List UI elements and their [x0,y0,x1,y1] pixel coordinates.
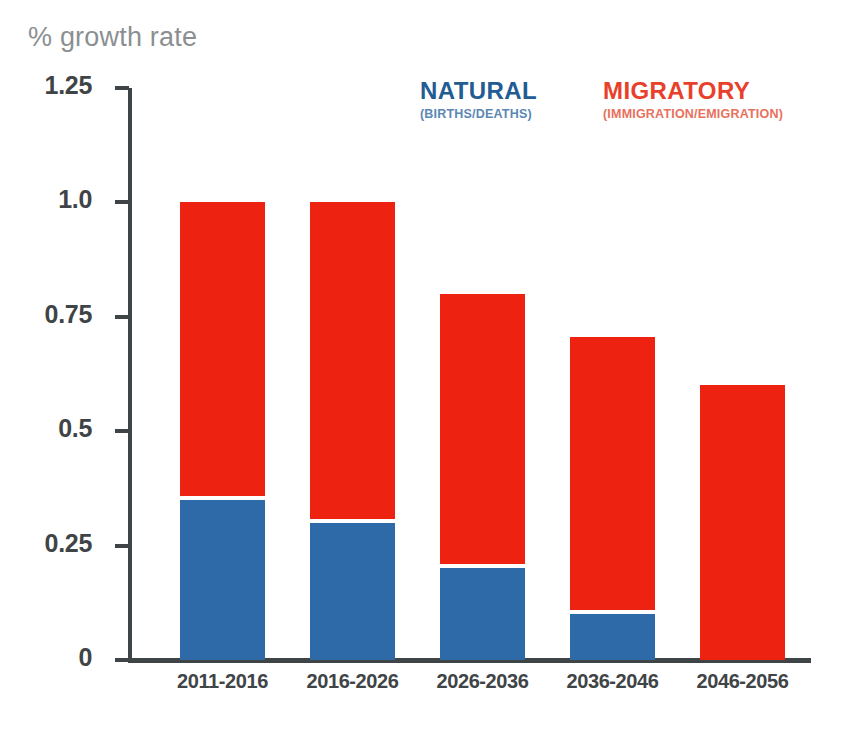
x-axis-label-2026-2036: 2026-2036 [413,670,553,693]
plot-area: 1.251.00.750.50.250 2011-20162016-202620… [0,0,849,740]
bar-segment-natural [570,614,655,660]
x-axis-label-2046-2056: 2046-2056 [673,670,813,693]
bar-segment-migratory [310,202,395,518]
bar-segment-migratory [180,202,265,495]
bar-segment-migratory [440,294,525,565]
y-axis-tick [115,315,129,319]
x-axis-label-2016-2026: 2016-2026 [283,670,423,693]
population-growth-chart: % growth rate NATURAL (BIRTHS/DEATHS) MI… [0,0,849,740]
bar-segment-migratory [570,337,655,610]
y-axis-tick-label: 0.25 [2,529,92,558]
bar-segment-migratory [700,385,785,660]
x-axis-label-2036-2046: 2036-2046 [543,670,683,693]
y-axis-line [128,88,132,662]
bar-2026-2036 [440,0,525,740]
bar-2036-2046 [570,0,655,740]
bar-2046-2056 [700,0,785,740]
y-axis-tick [115,658,129,662]
x-axis-label-2011-2016: 2011-2016 [153,670,293,693]
bar-2016-2026 [310,0,395,740]
bar-segment-natural [180,500,265,660]
y-axis-tick-label: 1.25 [2,71,92,100]
y-axis-tick-label: 1.0 [2,185,92,214]
bar-2011-2016 [180,0,265,740]
y-axis-tick [115,544,129,548]
y-axis-tick [115,429,129,433]
y-axis-tick-label: 0.75 [2,300,92,329]
y-axis-tick [115,200,129,204]
bar-segment-natural [310,523,395,660]
y-axis-tick-label: 0 [2,643,92,672]
y-axis-tick [115,86,129,90]
bar-segment-natural [440,568,525,660]
y-axis-tick-label: 0.5 [2,414,92,443]
